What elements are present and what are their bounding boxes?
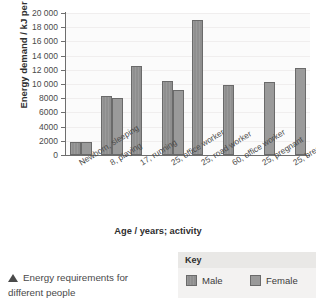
y-axis-tick-label: 8000	[39, 93, 58, 103]
x-axis-title: Age / years; activity	[0, 226, 316, 236]
y-axis-tick-label: 20 000	[32, 8, 58, 18]
legend-label-male: Male	[202, 275, 223, 286]
bar-group	[158, 13, 189, 155]
y-axis-tick	[61, 155, 66, 156]
legend-swatch-male-icon	[186, 275, 197, 286]
y-axis-tick-label: 4000	[39, 122, 58, 132]
caption-line-1: Energy requirements for	[23, 272, 128, 283]
y-axis-tick-label: 18 000	[32, 22, 58, 32]
legend-item-male: Male	[186, 275, 223, 286]
y-axis-tick-label: 10 000	[32, 79, 58, 89]
y-axis-tick-label: 14 000	[32, 51, 58, 61]
bar-male	[192, 20, 203, 155]
legend-item-female: Female	[250, 275, 298, 286]
y-axis-tick-label: 16 000	[32, 36, 58, 46]
bar-male	[70, 142, 81, 155]
figure-caption: Energy requirements for different people	[8, 270, 173, 300]
triangle-marker-icon	[8, 274, 18, 282]
y-axis-tick-label: 12 000	[32, 65, 58, 75]
y-axis-tick-label: 0	[53, 150, 58, 160]
legend-heading-label: Key	[185, 255, 202, 265]
legend-header: Key	[178, 252, 316, 268]
legend-body: Male Female	[178, 268, 316, 298]
y-axis-tick-label: 2000	[39, 136, 58, 146]
figure: 0200040006000800010 00012 00014 00016 00…	[0, 0, 316, 304]
bar-group	[66, 13, 97, 155]
legend-swatch-female-icon	[250, 275, 261, 286]
y-axis-tick-label: 6000	[39, 107, 58, 117]
legend: Key Male Female	[178, 252, 316, 298]
legend-label-female: Female	[266, 275, 298, 286]
caption-line-2: different people	[8, 287, 75, 298]
y-axis-title: Energy demand / kJ per day	[18, 0, 29, 121]
